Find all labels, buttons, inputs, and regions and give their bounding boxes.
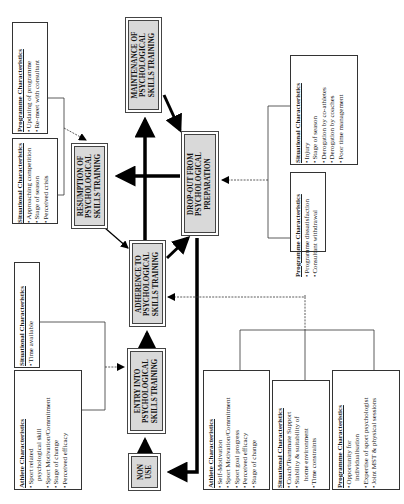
stage-nonuse: NON USE (128, 453, 161, 491)
box-item: Sport goal progress (233, 398, 242, 488)
stage-dropout: DROP-OUT FROM PSYCHOLOGICAL PREPARATION (181, 131, 219, 236)
box-title: Programme Characteristics (16, 49, 25, 132)
box-item: Sport Motivation/Commitment (224, 398, 233, 488)
adherence-programme-characteristics: Programme Characteristics Opportunity fo… (332, 370, 400, 490)
adherence-situational-characteristics: Situational Characteristics Coach/Teamma… (272, 380, 330, 490)
dropout-programme-characteristics: Programme Characteristics Programme diss… (290, 172, 326, 252)
adherence-athlete-characteristics: Athlete Characteristics Self-Motivation … (203, 370, 270, 490)
box-title: Situational Characteristics (276, 408, 285, 488)
stage-entry-label: ENTRY INTO PSYCHOLOGICAL SKILLS TRAINING (134, 359, 159, 423)
entry-athlete-characteristics: Athlete Characteristics Sport related ps… (14, 370, 82, 490)
box-title: Programme Characteristics (336, 398, 345, 488)
box-item: Derogation by co-athletes (320, 83, 329, 163)
psychological-skills-training-model-diagram: MAINTENANCE OF PSYCHOLOGICAL SKILLS TRAI… (0, 0, 404, 504)
stage-resumption: RESUMPTION OF PSYCHOLOGICAL SKILLS TRAIN… (71, 143, 108, 229)
box-item: Stability & suitability of (293, 408, 302, 488)
box-title: Athlete Characteristics (18, 398, 27, 488)
box-item: Joint MST & physical sessions (370, 398, 379, 488)
stage-maintenance: MAINTENANCE OF PSYCHOLOGICAL SKILLS TRAI… (125, 17, 162, 113)
label-line: PSYCHOLOGICAL (142, 359, 150, 423)
box-item: Stage of season (311, 83, 320, 163)
label-line: PSYCHOLOGICAL (143, 251, 151, 315)
box-title: Programme Characteristics (294, 194, 303, 277)
box-item: Re-meet with consultant (33, 49, 42, 132)
box-item: Sport Motivation/Commitment (44, 398, 53, 488)
box-title: Situational Characteristics (18, 286, 27, 366)
stage-maintenance-label: MAINTENANCE OF PSYCHOLOGICAL SKILLS TRAI… (131, 32, 156, 99)
stage-resumption-label: RESUMPTION OF PSYCHOLOGICAL SKILLS TRAIN… (77, 154, 102, 218)
stage-dropout-label: DROP-OUT FROM PSYCHOLOGICAL PREPARATION (187, 152, 212, 216)
stage-adherence: ADHERENCE TO PSYCHOLOGICAL SKILLS TRAINI… (129, 240, 166, 327)
box-item: Updating of programme (25, 49, 34, 132)
label-line: DROP-OUT FROM (187, 152, 195, 216)
box-title: Situational Characteristics (16, 143, 25, 223)
label-line: NON (136, 464, 144, 480)
stage-adherence-label: ADHERENCE TO PSYCHOLOGICAL SKILLS TRAINI… (135, 251, 160, 315)
box-item: Opportunity for (345, 398, 354, 488)
label-line: SKILLS TRAINING (94, 154, 102, 218)
stage-entry: ENTRY INTO PSYCHOLOGICAL SKILLS TRAINING (127, 348, 166, 434)
box-item: home environment (302, 408, 311, 488)
label-line: PREPARATION (204, 152, 212, 216)
box-item: Injury (303, 83, 312, 163)
label-line: SKILLS TRAINING (148, 32, 156, 99)
box-item: Perceived efficacy (61, 398, 70, 488)
box-item: Time constraints (310, 408, 319, 488)
stage-nonuse-label: NON USE (136, 464, 153, 480)
resumption-situational-characteristics: Situational Characteristics Approaching … (12, 138, 58, 224)
label-line: PSYCHOLOGICAL (85, 154, 93, 218)
box-item: psychological skill (35, 398, 44, 488)
box-title: Athlete Characteristics (207, 398, 216, 488)
dropout-situational-characteristics: Situational Characteristics Injury Stage… (290, 55, 358, 165)
box-item: Poor time management (337, 83, 346, 163)
box-item: Programme dissatisfaction (303, 194, 312, 277)
box-item: Sport related (27, 398, 36, 488)
box-item: Expertise of sport psychologist (362, 398, 371, 488)
label-line: RESUMPTION OF (77, 154, 85, 218)
box-title: Situational Characteristics (294, 83, 303, 163)
box-item: Stage of season (33, 143, 42, 223)
label-line: PSYCHOLOGICAL (196, 152, 204, 216)
box-item: Consultant withdrawal (311, 194, 320, 277)
box-item: Time available (27, 286, 36, 366)
label-line: ENTRY INTO (134, 359, 142, 423)
box-item: Self-Motivation (216, 398, 225, 488)
box-item: Stage of change (250, 398, 259, 488)
box-item: Stage of change (52, 398, 61, 488)
resumption-programme-characteristics: Programme Characteristics Updating of pr… (12, 22, 48, 134)
label-line: USE (145, 464, 153, 480)
entry-situational-characteristics: Situational Characteristics Time availab… (14, 262, 40, 368)
box-item: Perceived efficacy (241, 398, 250, 488)
box-item: Approaching competition (25, 143, 34, 223)
label-line: SKILLS TRAINING (152, 251, 160, 315)
label-line: ADHERENCE TO (135, 251, 143, 315)
label-line: MAINTENANCE OF (131, 32, 139, 99)
box-item: individualisation (353, 398, 362, 488)
label-line: PSYCHOLOGICAL (139, 32, 147, 99)
box-item: Perceived crisis (42, 143, 51, 223)
label-line: SKILLS TRAINING (151, 359, 159, 423)
box-item: Coach/Teammate Support (285, 408, 294, 488)
box-item: Derogation by coaches (328, 83, 337, 163)
